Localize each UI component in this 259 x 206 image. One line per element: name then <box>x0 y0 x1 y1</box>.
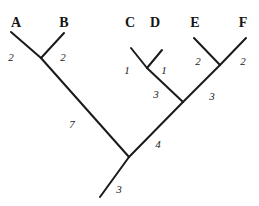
branch-AB <box>41 58 129 157</box>
len-A: 2 <box>3 52 19 63</box>
taxon-label-a: A <box>6 16 26 30</box>
phylogenetic-tree-figure: ABCDEF 22711322343 <box>0 0 259 206</box>
len-C: 1 <box>119 65 135 76</box>
len-CD: 3 <box>148 89 164 100</box>
len-EF: 3 <box>204 91 220 102</box>
taxon-label-d: D <box>145 16 165 30</box>
taxon-label-f: F <box>233 16 253 30</box>
len-E: 2 <box>190 56 206 67</box>
branch-group <box>11 32 246 197</box>
len-B: 2 <box>55 52 71 63</box>
taxon-label-b: B <box>54 16 74 30</box>
len-F: 2 <box>235 56 251 67</box>
tree-branches-svg <box>0 0 259 206</box>
len-AB: 7 <box>64 119 80 130</box>
len-root: 3 <box>111 184 127 195</box>
len-CDEF: 4 <box>150 139 166 150</box>
len-D: 1 <box>156 65 172 76</box>
taxon-label-e: E <box>185 16 205 30</box>
taxon-label-c: C <box>120 16 140 30</box>
